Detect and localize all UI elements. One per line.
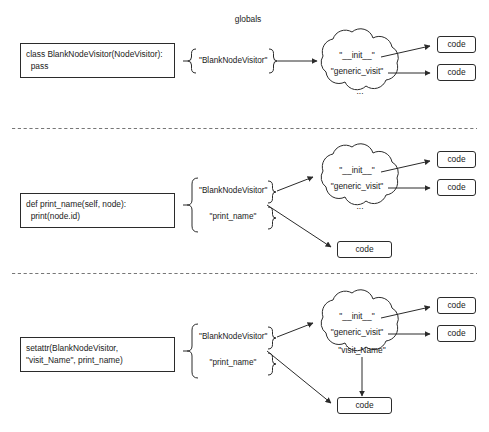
namespace-brace-right-class — [268, 181, 276, 203]
namespace-brace-right-class — [268, 327, 276, 349]
code-box-label: code — [437, 328, 476, 339]
namespace-brace-right — [269, 49, 278, 73]
globals-title: globals — [208, 14, 288, 25]
cloud-key-label: "generic_visit" — [322, 66, 392, 77]
arrow-namespace-to-cloud — [277, 177, 313, 191]
namespace-brace-left — [188, 49, 197, 73]
namespace-brace-right-func — [268, 353, 276, 375]
source-code-text: setattr(BlankNodeVisitor, "visit_Name", … — [26, 343, 176, 366]
extra-code-box-label: code — [337, 244, 392, 255]
arrow-print-name-to-code — [267, 205, 331, 247]
source-code-text: def print_name(self, node): print(node.i… — [26, 199, 176, 222]
code-box-label: code — [437, 67, 476, 78]
namespace-key-label: "BlankNodeVisitor" — [199, 56, 267, 67]
cloud-key-label: "__init__" — [326, 50, 388, 61]
extra-code-box-label: code — [337, 400, 392, 411]
diagram-root: globals class BlankNodeVisitor(NodeVisit… — [0, 0, 489, 432]
namespace-brace-left — [187, 178, 198, 232]
namespace-key-label: "print_name" — [202, 212, 264, 223]
code-box-label: code — [437, 154, 476, 165]
cloud-key-ellipsis: ... — [332, 201, 388, 212]
cloud-key-label: "generic_visit" — [322, 181, 392, 192]
arrow-print-name-to-code — [267, 351, 331, 403]
namespace-key-label: "BlankNodeVisitor" — [199, 186, 267, 197]
code-box-label: code — [437, 300, 476, 311]
cloud-key-label: "__init__" — [326, 311, 388, 322]
cloud-key-label: "visit_Name" — [327, 345, 397, 356]
arrow-namespace-to-cloud — [277, 323, 313, 337]
code-box-label: code — [437, 182, 476, 193]
namespace-key-label: "BlankNodeVisitor" — [199, 332, 267, 343]
cloud-key-label: "__init__" — [326, 165, 388, 176]
cloud-key-label: "generic_visit" — [322, 327, 392, 338]
namespace-brace-left — [187, 324, 198, 378]
cloud-key-ellipsis: ... — [332, 86, 388, 97]
namespace-key-label: "print_name" — [202, 358, 264, 369]
source-code-text: class BlankNodeVisitor(NodeVisitor): pas… — [26, 49, 176, 72]
code-box-label: code — [437, 39, 476, 50]
